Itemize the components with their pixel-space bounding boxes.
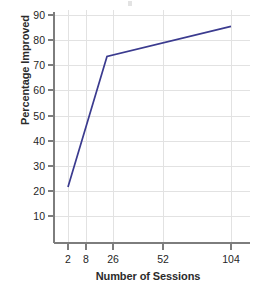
x-tick-label: 104 [222,253,240,265]
y-tick-labels: 90 80 70 60 50 40 30 20 10 [33,9,45,222]
y-axis [48,12,54,243]
y-tick-label: 40 [33,135,45,147]
plot-area: 90 80 70 60 50 40 30 20 10 2 8 26 52 104 [0,0,255,291]
data-series-line [68,26,231,187]
y-tick-label: 60 [33,84,45,96]
y-tick-label: 80 [33,34,45,46]
y-tick-label: 90 [33,9,45,21]
vertical-gridlines [68,10,231,243]
x-tick-label: 52 [157,253,169,265]
x-axis [54,243,250,250]
x-tick-labels: 2 8 26 52 104 [65,253,240,265]
y-tick-label: 50 [33,110,45,122]
x-tick-label: 8 [83,253,89,265]
x-tick-label: 2 [65,253,71,265]
y-tick-label: 20 [33,185,45,197]
x-axis-title: Number of Sessions [53,270,243,282]
line-chart: Percentage Improved [0,0,255,291]
y-tick-label: 70 [33,59,45,71]
y-tick-label: 10 [33,210,45,222]
x-tick-label: 26 [107,253,119,265]
y-tick-label: 30 [33,160,45,172]
